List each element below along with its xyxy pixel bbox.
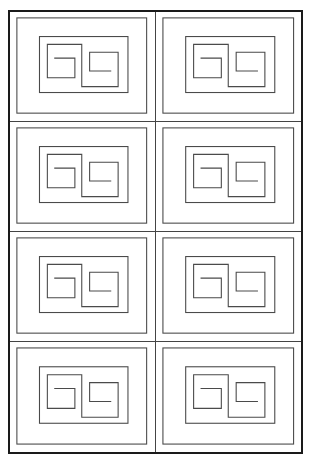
motif-cell-r2-c0 bbox=[10, 232, 156, 342]
double-spiral-motif bbox=[10, 232, 155, 341]
motif-cell-r3-c0 bbox=[10, 342, 156, 452]
motif-cell-r0-c1 bbox=[156, 12, 302, 122]
diagram-frame bbox=[8, 10, 303, 454]
motif-cell-r1-c1 bbox=[156, 122, 302, 232]
double-spiral-motif bbox=[156, 12, 302, 121]
double-spiral-path bbox=[47, 154, 118, 196]
double-spiral-motif bbox=[156, 232, 302, 341]
double-spiral-motif bbox=[156, 122, 302, 231]
double-spiral-path bbox=[193, 154, 264, 196]
motif-cell-r0-c0 bbox=[10, 12, 156, 122]
double-spiral-motif bbox=[10, 122, 155, 231]
motif-cell-r2-c1 bbox=[156, 232, 302, 342]
double-spiral-path bbox=[47, 44, 118, 86]
double-spiral-path bbox=[47, 264, 118, 306]
double-spiral-motif bbox=[10, 12, 155, 121]
double-spiral-motif bbox=[10, 342, 155, 452]
double-spiral-path bbox=[193, 264, 264, 306]
double-spiral-path bbox=[193, 375, 264, 418]
motif-cell-r3-c1 bbox=[156, 342, 302, 452]
double-spiral-path bbox=[193, 44, 264, 86]
motif-cell-r1-c0 bbox=[10, 122, 156, 232]
double-spiral-path bbox=[47, 375, 118, 418]
double-spiral-motif bbox=[156, 342, 302, 452]
